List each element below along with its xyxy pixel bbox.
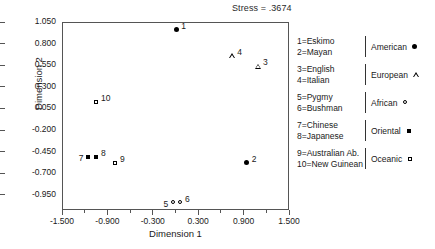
legend-row: 9=Australian Ab.10=New GuineanOceanic (297, 148, 433, 169)
x-tick-mark (84, 210, 85, 213)
y-tick-mark (0, 130, 5, 131)
y-tick-mark (0, 22, 5, 23)
y-tick-mark (0, 86, 5, 87)
x-tick-mark (107, 210, 108, 215)
x-tick-mark (243, 210, 244, 215)
y-tick-label: -0.700 (32, 167, 56, 177)
legend-codes: 9=Australian Ab.10=New Guinean (297, 148, 363, 169)
x-tick-label: -0.300 (131, 216, 175, 226)
legend-group: Oceanic (371, 154, 413, 164)
data-point-label: 1 (181, 21, 186, 31)
x-tick-mark (289, 210, 290, 215)
y-tick-mark (0, 173, 5, 174)
y-tick-label: 0.050 (35, 102, 56, 112)
data-point-label: 7 (79, 153, 84, 163)
data-point-label: 3 (263, 57, 268, 67)
y-tick-label: -0.200 (32, 124, 56, 134)
x-tick-mark (220, 210, 221, 213)
x-tick-mark (266, 210, 267, 213)
data-point-label: 9 (120, 154, 125, 164)
data-point-label: 6 (185, 194, 190, 204)
open-circle-marker-icon (171, 200, 175, 204)
x-tick-mark (130, 210, 131, 213)
filled-square-legend-icon (406, 128, 412, 134)
open-triangle-marker-icon (229, 53, 235, 58)
data-point-label: 8 (101, 148, 106, 158)
stress-annotation: Stress = .3674 (232, 3, 292, 13)
legend-code: 6=Bushman (297, 103, 363, 114)
legend-divider (365, 64, 366, 85)
legend-group: Oriental (371, 126, 412, 136)
legend-group-label: American (371, 42, 407, 52)
filled-square-marker-icon (94, 155, 98, 159)
data-point-label: 10 (101, 93, 110, 103)
legend-divider (365, 120, 366, 141)
legend-group-label: African (371, 98, 397, 108)
legend-group: European (371, 70, 419, 80)
legend-group-label: Oriental (371, 126, 401, 136)
y-tick-label: -0.450 (32, 146, 56, 156)
y-tick-mark (0, 65, 5, 66)
open-triangle-legend-icon (413, 72, 419, 78)
y-tick-label: -0.950 (32, 189, 56, 199)
y-tick-label: 0.800 (35, 38, 56, 48)
y-tick-mark (0, 108, 5, 109)
legend-row: 3=English4=ItalianEuropean (297, 64, 433, 85)
legend-code: 2=Mayan (297, 47, 363, 58)
open-square-legend-icon (407, 156, 413, 162)
legend-code: 5=Pygmy (297, 92, 363, 103)
plot-area (62, 22, 289, 210)
legend-divider (365, 148, 366, 169)
y-tick-label: 1.050 (35, 16, 56, 26)
data-point-label: 2 (252, 154, 257, 164)
x-tick-mark (198, 210, 199, 215)
legend-codes: 5=Pygmy6=Bushman (297, 92, 363, 113)
data-point-label: 4 (237, 47, 242, 57)
y-tick-label: 0.550 (35, 59, 56, 69)
x-tick-label: 0.900 (222, 216, 266, 226)
legend-group: American (371, 42, 418, 52)
legend-group: African (371, 98, 408, 108)
legend-code: 8=Japanese (297, 131, 363, 142)
open-triangle-marker-icon (255, 64, 261, 69)
y-tick-mark (0, 194, 5, 195)
x-tick-mark (152, 210, 153, 215)
filled-circle-legend-icon (412, 44, 418, 50)
open-circle-legend-icon (402, 100, 408, 106)
legend-code: 9=Australian Ab. (297, 148, 363, 159)
x-tick-label: -0.900 (85, 216, 129, 226)
legend-code: 10=New Guinean (297, 159, 363, 170)
scatter-plot-figure: Stress = .3674 Dimension 2 Dimension 1 1… (0, 0, 435, 249)
legend-codes: 1=Eskimo2=Mayan (297, 36, 363, 57)
x-tick-label: 0.300 (176, 216, 220, 226)
legend-divider (365, 36, 366, 57)
legend-row: 7=Chinese8=JapaneseOriental (297, 120, 433, 141)
legend: 1=Eskimo2=MayanAmerican3=English4=Italia… (297, 36, 433, 176)
legend-code: 1=Eskimo (297, 36, 363, 47)
legend-codes: 3=English4=Italian (297, 64, 363, 85)
legend-codes: 7=Chinese8=Japanese (297, 120, 363, 141)
open-circle-marker-icon (178, 200, 182, 204)
open-square-marker-icon (113, 161, 117, 165)
y-tick-label: 0.300 (35, 81, 56, 91)
legend-row: 5=Pygmy6=BushmanAfrican (297, 92, 433, 113)
x-axis-title: Dimension 1 (62, 228, 289, 239)
legend-code: 7=Chinese (297, 120, 363, 131)
legend-group-label: Oceanic (371, 154, 402, 164)
filled-square-marker-icon (86, 155, 90, 159)
x-tick-label: 1.500 (267, 216, 311, 226)
y-tick-mark (0, 151, 5, 152)
legend-group-label: European (371, 70, 408, 80)
y-tick-mark (0, 43, 5, 44)
legend-row: 1=Eskimo2=MayanAmerican (297, 36, 433, 57)
open-square-marker-icon (94, 100, 98, 104)
x-tick-label: -1.500 (40, 216, 84, 226)
legend-code: 4=Italian (297, 75, 363, 86)
legend-divider (365, 92, 366, 113)
x-tick-mark (175, 210, 176, 213)
data-point-label: 5 (163, 199, 168, 209)
x-tick-mark (62, 210, 63, 215)
legend-code: 3=English (297, 64, 363, 75)
